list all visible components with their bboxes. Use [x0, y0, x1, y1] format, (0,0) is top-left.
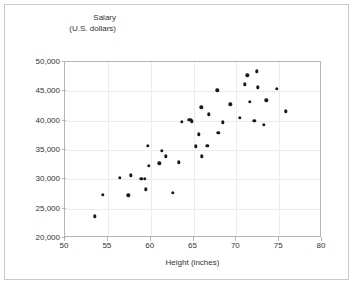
data-point: [197, 132, 200, 135]
data-point: [144, 188, 147, 191]
y-tick-mark: [62, 120, 66, 121]
y-axis-title-line1: Salary: [6, 12, 116, 23]
data-point: [262, 123, 265, 126]
data-point: [194, 145, 197, 148]
x-tick-label: 65: [188, 241, 197, 250]
data-point: [146, 144, 149, 147]
y-tick-mark: [62, 208, 66, 209]
data-point: [207, 113, 210, 116]
gridline-horizontal: [65, 179, 320, 180]
data-point: [158, 162, 161, 165]
data-point: [93, 215, 96, 218]
gridline-vertical: [194, 62, 195, 236]
x-tick-label: 70: [231, 241, 240, 250]
y-tick-label: 35,000: [4, 145, 60, 154]
gridline-horizontal: [65, 209, 320, 210]
data-point: [248, 100, 251, 103]
data-point: [284, 110, 287, 113]
x-tick-mark: [193, 237, 194, 241]
x-tick-mark: [150, 237, 151, 241]
y-tick-label: 30,000: [4, 174, 60, 183]
gridline-vertical: [151, 62, 152, 236]
x-tick-label: 75: [274, 241, 283, 250]
gridline-vertical: [108, 62, 109, 236]
y-tick-mark: [62, 149, 66, 150]
gridline-horizontal: [65, 150, 320, 151]
data-point: [255, 70, 258, 73]
data-point: [221, 121, 224, 124]
x-tick-mark: [235, 237, 236, 241]
data-point: [265, 98, 268, 101]
scatter-plot-figure: Salary (U.S. dollars) 20,00025,00030,000…: [0, 0, 353, 284]
data-point: [177, 161, 180, 164]
data-point: [171, 191, 174, 194]
x-tick-label: 80: [317, 241, 326, 250]
x-tick-mark: [107, 237, 108, 241]
data-point: [275, 87, 278, 90]
data-point: [200, 105, 203, 108]
data-point: [160, 149, 163, 152]
data-point: [180, 120, 183, 123]
gridline-horizontal: [65, 91, 320, 92]
y-tick-mark: [62, 90, 66, 91]
y-tick-label: 40,000: [4, 115, 60, 124]
gridline-vertical: [279, 62, 280, 236]
data-point: [217, 131, 220, 134]
data-point: [238, 116, 241, 119]
x-tick-mark: [321, 237, 322, 241]
data-point: [243, 83, 246, 86]
x-tick-mark: [64, 237, 65, 241]
y-tick-label: 50,000: [4, 57, 60, 66]
data-point: [253, 119, 256, 122]
data-point: [206, 144, 209, 147]
gridline-vertical: [236, 62, 237, 236]
y-tick-label: 20,000: [4, 233, 60, 242]
data-point: [101, 193, 104, 196]
x-axis-title: Height (inches): [64, 258, 321, 267]
x-tick-label: 55: [102, 241, 111, 250]
x-tick-label: 50: [60, 241, 69, 250]
y-tick-mark: [62, 61, 66, 62]
data-point: [129, 174, 132, 177]
x-tick-label: 60: [145, 241, 154, 250]
data-point: [256, 86, 259, 89]
data-point: [164, 155, 167, 158]
y-tick-mark: [62, 178, 66, 179]
x-tick-mark: [278, 237, 279, 241]
y-axis-title-line2: (U.S. dollars): [6, 23, 116, 34]
y-axis-ticks: 20,00025,00030,00035,00040,00045,00050,0…: [2, 61, 60, 237]
data-point: [127, 193, 130, 196]
y-tick-label: 45,000: [4, 86, 60, 95]
plot-area: [64, 61, 321, 237]
data-point: [246, 74, 249, 77]
data-point: [229, 103, 232, 106]
data-point: [200, 155, 203, 158]
y-tick-label: 25,000: [4, 203, 60, 212]
y-axis-title: Salary (U.S. dollars): [6, 12, 116, 34]
